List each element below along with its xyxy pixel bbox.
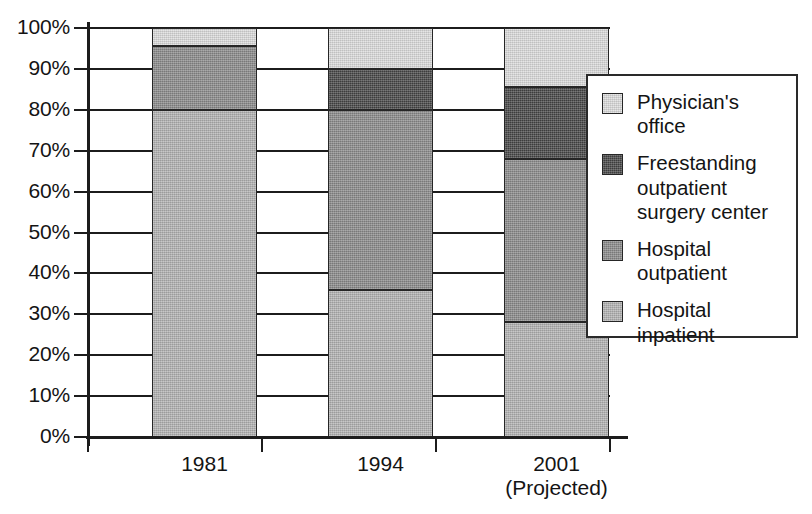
y-axis-label: 100%: [0, 16, 70, 37]
bar-segment[interactable]: [152, 46, 257, 109]
bar-segment[interactable]: [504, 322, 609, 437]
legend-item[interactable]: Freestanding outpatient surgery center: [602, 151, 788, 224]
bar-segment[interactable]: [328, 69, 433, 110]
y-axis-tick: [74, 109, 87, 111]
x-axis-label-year: 1981: [181, 452, 228, 475]
y-axis-tick: [74, 232, 87, 234]
legend-label: Freestanding outpatient surgery center: [637, 151, 788, 224]
legend-swatch-freestanding: [602, 154, 623, 175]
y-axis-tick: [74, 313, 87, 315]
legend-swatch-hospital-outpatient: [602, 240, 623, 261]
y-axis-tick: [74, 191, 87, 193]
x-axis-tick: [261, 438, 263, 452]
legend-swatch-hospital-inpatient: [602, 301, 623, 322]
y-axis-label: 90%: [0, 57, 70, 78]
bar-1981[interactable]: [152, 28, 257, 437]
y-axis-label: 60%: [0, 180, 70, 201]
bar-segment[interactable]: [328, 290, 433, 437]
legend-item[interactable]: Physician's office: [602, 90, 788, 138]
y-axis-label: 40%: [0, 261, 70, 282]
legend-label: Physician's office: [637, 90, 788, 138]
x-axis-label-note: (Projected): [477, 476, 637, 500]
y-axis-tick: [74, 27, 87, 29]
legend-swatch-physician-office: [602, 93, 623, 114]
y-axis-tick: [74, 272, 87, 274]
bar-segment[interactable]: [328, 28, 433, 69]
stacked-bar-chart: 100%90%80%70%60%50%40%30%20%10%0% 198119…: [0, 0, 812, 514]
y-axis-label: 50%: [0, 221, 70, 242]
y-axis-label: 10%: [0, 384, 70, 405]
legend-item[interactable]: Hospital outpatient: [602, 237, 788, 285]
y-axis-tick: [74, 68, 87, 70]
legend-label: Hospital outpatient: [637, 237, 788, 285]
bar-segment[interactable]: [152, 110, 257, 437]
x-axis-spine: [86, 436, 628, 439]
legend-label: Hospital inpatient: [637, 298, 788, 346]
legend: Physician's office Freestanding outpatie…: [586, 74, 798, 338]
y-axis-label: 70%: [0, 139, 70, 160]
y-axis-label: 0%: [0, 425, 70, 446]
y-axis-label: 30%: [0, 302, 70, 323]
plot-area: [88, 28, 610, 437]
bar-1994[interactable]: [328, 28, 433, 437]
bar-segment[interactable]: [328, 110, 433, 290]
x-axis-label-1994: 1994: [301, 452, 461, 476]
x-axis-label-year: 2001: [533, 452, 580, 475]
x-axis-tick: [609, 438, 611, 452]
y-axis-label: 20%: [0, 343, 70, 364]
x-axis-label-1981: 1981: [125, 452, 285, 476]
y-axis-tick: [74, 150, 87, 152]
y-axis-label: 80%: [0, 98, 70, 119]
x-axis-label-year: 1994: [357, 452, 404, 475]
x-axis-label-2001: 2001(Projected): [477, 452, 637, 499]
bar-segment[interactable]: [152, 28, 257, 46]
y-axis-tick: [74, 354, 87, 356]
y-axis-tick: [74, 395, 87, 397]
x-axis-tick: [435, 438, 437, 452]
legend-item[interactable]: Hospital inpatient: [602, 298, 788, 346]
x-axis-tick: [87, 438, 89, 452]
